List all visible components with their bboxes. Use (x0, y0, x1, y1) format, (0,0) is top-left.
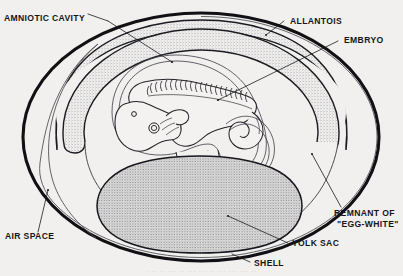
label-embryo: EMBRYO (344, 35, 384, 45)
caption-partial: · ·· ·· ··· ·· ··· ··· ·· ··· ··· ··· ·· (0, 268, 403, 276)
label-allantois: ALLANTOIS (290, 16, 342, 26)
diagram-canvas: AMNIOTIC CAVITY ALLANTOIS EMBRYO REMNANT… (0, 0, 403, 276)
label-remnant-eggwhite-line1: REMNANT OF (334, 208, 395, 218)
leader-amniotic-short (88, 14, 108, 21)
label-remnant-eggwhite-line2: "EGG-WHITE" (337, 219, 399, 229)
label-shell: SHELL (254, 258, 284, 268)
label-yolk-sac: YOLK SAC (292, 238, 339, 248)
leader-air-space-dot (47, 189, 49, 191)
leader-embryo-dot (217, 99, 219, 101)
egg-anatomy-figure: AMNIOTIC CAVITY ALLANTOIS EMBRYO REMNANT… (0, 0, 403, 276)
leader-yolk-dot (227, 215, 229, 217)
label-amniotic-cavity: AMNIOTIC CAVITY (4, 13, 85, 23)
leader-amniotic-dot (171, 61, 173, 63)
yolk-sac-shape (97, 156, 302, 253)
leader-allantois-dot (265, 34, 267, 36)
yolk-sac-region (97, 156, 302, 253)
leader-eggwhite-dot (311, 153, 313, 155)
label-air-space: AIR SPACE (5, 231, 54, 241)
